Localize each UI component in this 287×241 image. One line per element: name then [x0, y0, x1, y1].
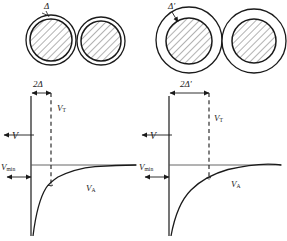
attraction-curve-label: VA	[231, 180, 241, 190]
v-min-label: Vmin	[139, 163, 153, 173]
delta-prime-label: Δ′	[168, 2, 175, 11]
figure-svg	[0, 0, 287, 241]
chart-left	[4, 93, 137, 236]
particle-core	[81, 21, 121, 61]
chart-right	[142, 93, 282, 236]
figure-canvas: Δ Δ′ 2Δ VT V Vmin VA 2Δ′ VT V Vmin VA	[0, 0, 287, 241]
particle-core	[232, 19, 276, 63]
two-delta-prime-dimension-label: 2Δ′	[180, 80, 192, 89]
schematic-right-pair	[156, 7, 286, 73]
attraction-curve-label: VA	[86, 184, 96, 194]
particle-core	[30, 19, 72, 61]
two-delta-dimension-label: 2Δ	[33, 80, 43, 89]
v-axis-label: V	[150, 131, 156, 141]
attraction-curve	[171, 164, 281, 236]
v-min-label: Vmin	[1, 163, 15, 173]
barrier-label: VT	[57, 104, 66, 114]
barrier-label: VT	[214, 114, 223, 124]
delta-label: Δ	[44, 2, 49, 11]
v-axis-label: V	[12, 131, 18, 141]
attraction-curve	[33, 165, 136, 236]
schematic-left-pair	[26, 11, 125, 65]
particle-core	[166, 18, 212, 64]
